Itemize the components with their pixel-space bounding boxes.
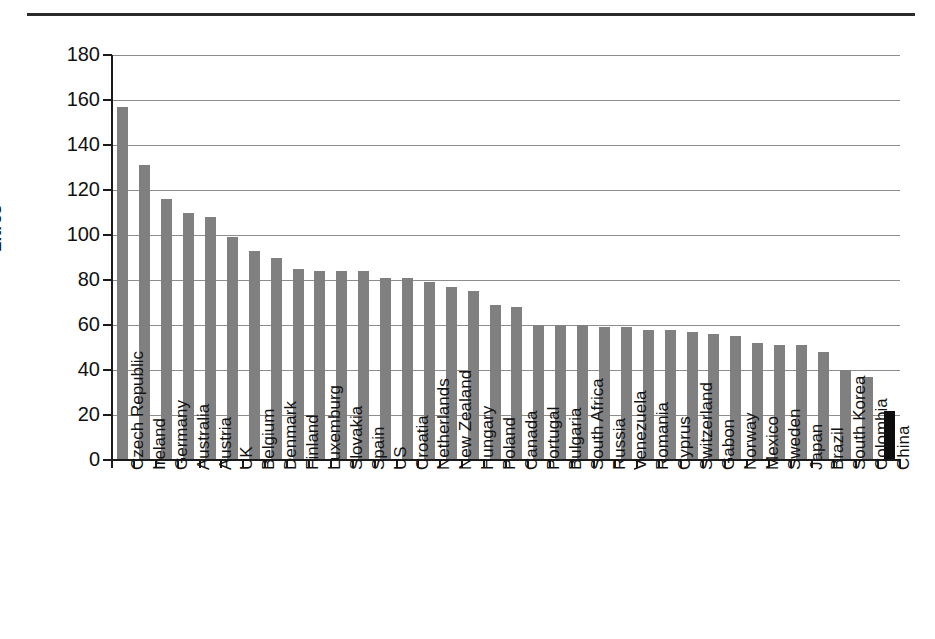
x-axis-tick-label: South Africa	[589, 378, 606, 470]
x-axis-tick-label: Denmark	[282, 401, 299, 470]
y-axis-tick	[103, 144, 112, 146]
x-axis-tick-label: Portugal	[545, 407, 562, 470]
y-axis-tick	[103, 99, 112, 101]
x-axis-tick-label: Belgium	[260, 409, 277, 470]
y-axis-tick-label: 160	[40, 89, 100, 109]
y-axis-tick-label: 20	[40, 404, 100, 424]
gridline	[112, 145, 900, 146]
y-axis-title: Litres	[0, 205, 6, 253]
x-axis-tick-label: Poland	[501, 417, 518, 470]
y-axis-tick-label: 140	[40, 134, 100, 154]
y-axis-tick-label: 100	[40, 224, 100, 244]
x-axis-tick-label: Slovakia	[348, 406, 365, 470]
plot-area	[112, 55, 900, 460]
gridline	[112, 100, 900, 101]
x-axis-tick-label: Canada	[523, 410, 540, 470]
x-axis-tick-label: Switzerland	[698, 382, 715, 470]
x-axis-tick-label: Norway	[742, 412, 759, 470]
gridline	[112, 55, 900, 56]
y-axis-tick-label: 60	[40, 314, 100, 334]
y-axis-tick-label: 0	[40, 449, 100, 469]
x-axis-tick-label: Spain	[370, 427, 387, 470]
bar-chart: Litres 020406080100120140160180Czech Rep…	[0, 0, 935, 639]
x-axis-tick-label: Australia	[195, 404, 212, 470]
x-axis-tick-label: Czech Republic	[129, 351, 146, 470]
y-axis-tick	[103, 414, 112, 416]
x-axis-tick-label: Sweden	[786, 409, 803, 470]
x-axis-tick-label: New Zealand	[457, 370, 474, 470]
x-axis-tick-label: Venezuela	[632, 391, 649, 470]
bar	[117, 107, 128, 460]
y-axis-tick	[103, 54, 112, 56]
y-axis-tick	[103, 279, 112, 281]
x-axis-tick-label: Colombia	[873, 398, 890, 470]
x-axis-tick-label: Ireland	[151, 418, 168, 470]
x-axis-tick-label: China	[895, 426, 912, 470]
x-axis-tick-label: South Korea	[851, 375, 868, 470]
y-axis-tick	[103, 324, 112, 326]
y-axis-tick	[103, 189, 112, 191]
gridline	[112, 190, 900, 191]
x-axis-tick-label: Germany	[173, 400, 190, 470]
gridline	[112, 235, 900, 236]
y-axis-tick-label: 180	[40, 44, 100, 64]
x-axis-tick-label: Bulgaria	[567, 408, 584, 470]
x-axis-tick	[111, 460, 113, 468]
x-axis-tick-label: Cyprus	[676, 416, 693, 470]
x-axis-tick-label: Luxemburg	[326, 385, 343, 470]
x-axis-tick-label: Hungary	[479, 406, 496, 470]
x-axis-tick-label: Gabon	[720, 419, 737, 470]
x-axis-tick-label: US	[392, 446, 409, 470]
y-axis-tick	[103, 369, 112, 371]
y-axis-tick-label: 120	[40, 179, 100, 199]
bar	[402, 278, 413, 460]
y-axis-tick-label: 80	[40, 269, 100, 289]
y-axis-line	[111, 55, 113, 461]
x-axis-tick-label: Japan	[808, 424, 825, 470]
x-axis-tick-label: Croatia	[414, 415, 431, 470]
x-axis-tick-label: Romania	[654, 402, 671, 470]
x-axis-tick-label: Netherlands	[435, 378, 452, 470]
x-axis-tick-label: Austria	[217, 417, 234, 470]
x-axis-tick-label: Brazil	[829, 427, 846, 470]
x-axis-tick-label: Russia	[611, 418, 628, 470]
x-axis-tick-label: Finland	[304, 414, 321, 470]
y-axis-tick-label: 40	[40, 359, 100, 379]
x-axis-tick-label: UK	[238, 446, 255, 470]
x-axis-tick-label: Mexico	[764, 416, 781, 470]
y-axis-tick	[103, 234, 112, 236]
